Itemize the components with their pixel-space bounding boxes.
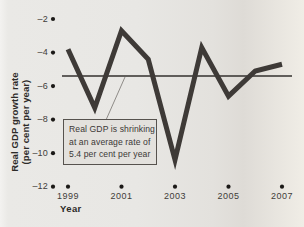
annotation-line2: at an average rate of	[69, 136, 156, 149]
x-tick-label: 2007	[265, 191, 299, 202]
y-tick-label: –12	[18, 181, 48, 192]
x-tick-dot	[173, 185, 177, 189]
y-tick-label: –2	[18, 14, 48, 25]
x-tick-dot	[226, 185, 230, 189]
y-tick-label: –6	[18, 81, 48, 92]
gdp-growth-chart-figure: Real GDP growth rate (per cent per year)…	[0, 0, 304, 227]
annotation-line3: 5.4 per cent per year	[69, 148, 156, 161]
x-tick-label: 2005	[212, 191, 246, 202]
x-tick-label: 1999	[51, 191, 85, 202]
y-tick-dot	[51, 17, 55, 21]
y-tick-dot	[51, 118, 55, 122]
y-tick-label: –8	[18, 114, 48, 125]
x-tick-dot	[280, 185, 284, 189]
y-tick-dot	[51, 84, 55, 88]
y-tick-label: –4	[18, 47, 48, 58]
x-tick-dot	[66, 185, 70, 189]
callout-leader-line	[106, 77, 125, 120]
y-tick-dot	[51, 185, 55, 189]
x-tick-label: 2003	[158, 191, 192, 202]
y-tick-label: –10	[18, 148, 48, 159]
annotation-line1: Real GDP is shrinking	[69, 123, 156, 136]
x-tick-dot	[119, 185, 123, 189]
annotation-box: Real GDP is shrinking at an average rate…	[63, 119, 157, 165]
x-axis-title: Year	[60, 203, 82, 214]
x-tick-label: 2001	[105, 191, 139, 202]
y-tick-dot	[51, 50, 55, 54]
y-tick-dot	[51, 151, 55, 155]
